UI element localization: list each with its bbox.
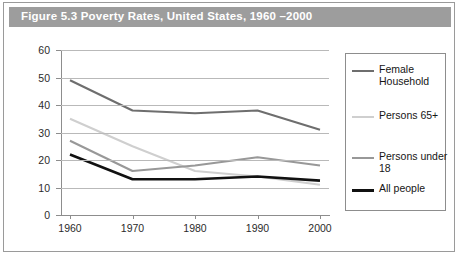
figure-container: Figure 5.3 Poverty Rates, United States,… [3,2,455,252]
y-axis-tick-label: 60 [20,44,50,56]
x-tick-mark [133,215,134,219]
y-tick-mark [56,50,61,51]
y-axis-tick-label: 50 [20,72,50,84]
y-axis-tick-label: 30 [20,127,50,139]
figure-title: Figure 5.3 Poverty Rates, United States,… [21,10,312,22]
gridline [61,105,329,106]
x-tick-mark [195,215,196,219]
y-axis-tick-label: 40 [20,99,50,111]
legend-label: Persons under 18 [379,150,451,174]
y-tick-mark [56,133,61,134]
x-tick-mark [70,215,71,219]
legend-swatch [352,70,374,72]
legend-label: All people [379,182,451,194]
y-tick-mark [56,188,61,189]
series-line [70,141,320,171]
x-axis-tick-label: 2000 [298,222,342,234]
y-axis-tick-label: 0 [20,209,50,221]
y-tick-mark [56,105,61,106]
gridline [61,50,329,51]
chart-legend: Female HouseholdPersons 65+Persons under… [345,53,446,211]
y-tick-mark [56,160,61,161]
legend-swatch [352,157,374,159]
x-axis-tick-label: 1970 [111,222,155,234]
legend-swatch [352,189,374,192]
x-axis-tick-label: 1960 [48,222,92,234]
y-tick-mark [56,215,61,216]
plot-area [61,50,329,215]
legend-label: Persons 65+ [379,109,451,121]
gridline [61,78,329,79]
x-axis-tick-label: 1980 [173,222,217,234]
gridline [61,160,329,161]
legend-label: Female Household [379,63,451,87]
legend-swatch [352,116,374,118]
figure-title-band: Figure 5.3 Poverty Rates, United States,… [9,7,451,27]
x-axis-tick-label: 1990 [236,222,280,234]
gridline [61,188,329,189]
y-tick-mark [56,78,61,79]
y-axis-tick-label: 20 [20,154,50,166]
series-line [70,119,320,185]
y-axis-tick-label: 10 [20,182,50,194]
x-tick-mark [320,215,321,219]
gridline [61,133,329,134]
x-tick-mark [258,215,259,219]
